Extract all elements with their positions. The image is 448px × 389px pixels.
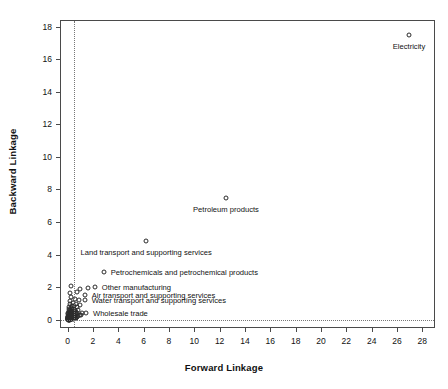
data-point-labeled [223, 195, 228, 200]
y-tick-label: 10 [30, 152, 52, 162]
x-tick-mark [68, 328, 69, 332]
y-tick-label: 2 [30, 282, 52, 292]
x-tick-mark [321, 328, 322, 332]
x-tick-label: 8 [167, 336, 172, 346]
data-point-label: Electricity [393, 41, 426, 50]
data-point [74, 290, 79, 295]
data-point-labeled [101, 269, 106, 274]
data-point-label: Petroleum products [193, 204, 259, 213]
x-tick-label: 22 [342, 336, 351, 346]
y-tick-label: 18 [30, 22, 52, 32]
horizontal-reference-line [61, 320, 434, 321]
y-tick-mark [56, 27, 60, 28]
x-axis-title: Forward Linkage [0, 362, 448, 373]
x-tick-mark [397, 328, 398, 332]
x-tick-label: 6 [141, 336, 146, 346]
data-point-labeled [82, 292, 87, 297]
x-tick-mark [372, 328, 373, 332]
x-tick-label: 0 [65, 336, 70, 346]
y-tick-mark [56, 92, 60, 93]
y-tick-label: 12 [30, 119, 52, 129]
vertical-reference-line [74, 21, 75, 327]
data-point-label: Wholesale trade [93, 308, 148, 317]
data-point-labeled [92, 285, 97, 290]
y-tick-label: 4 [30, 250, 52, 260]
y-tick-mark [56, 287, 60, 288]
data-point [86, 286, 91, 291]
data-point-label: Water transport and supporting services [92, 295, 226, 304]
y-tick-mark [56, 320, 60, 321]
y-tick-mark [56, 222, 60, 223]
y-tick-label: 14 [30, 87, 52, 97]
y-tick-label: 6 [30, 217, 52, 227]
x-tick-label: 18 [291, 336, 300, 346]
y-tick-label: 8 [30, 184, 52, 194]
data-point-labeled [82, 297, 87, 302]
x-tick-mark [245, 328, 246, 332]
x-tick-mark [118, 328, 119, 332]
y-tick-label: 0 [30, 315, 52, 325]
y-tick-mark [56, 59, 60, 60]
data-point [69, 284, 74, 289]
x-tick-mark [270, 328, 271, 332]
y-tick-mark [56, 189, 60, 190]
data-point-labeled [83, 310, 88, 315]
x-tick-label: 26 [392, 336, 401, 346]
x-tick-label: 16 [266, 336, 275, 346]
data-point-labeled [144, 238, 149, 243]
y-axis-title: Backward Linkage [7, 112, 18, 232]
y-tick-mark [56, 157, 60, 158]
x-tick-mark [220, 328, 221, 332]
x-tick-label: 12 [215, 336, 224, 346]
x-tick-mark [296, 328, 297, 332]
scatter-plot-figure: Backward Linkage Forward Linkage Electri… [0, 0, 448, 389]
x-tick-mark [169, 328, 170, 332]
x-tick-label: 28 [418, 336, 427, 346]
x-tick-mark [194, 328, 195, 332]
x-tick-label: 20 [316, 336, 325, 346]
y-tick-label: 16 [30, 54, 52, 64]
x-tick-mark [422, 328, 423, 332]
x-tick-mark [346, 328, 347, 332]
data-point-label: Petrochemicals and petrochemical product… [111, 267, 258, 276]
x-tick-mark [144, 328, 145, 332]
x-tick-label: 24 [367, 336, 376, 346]
data-point-labeled [407, 32, 412, 37]
data-point-label: Land transport and supporting services [80, 247, 211, 256]
y-tick-mark [56, 124, 60, 125]
x-tick-label: 14 [240, 336, 249, 346]
x-tick-mark [93, 328, 94, 332]
x-tick-label: 2 [91, 336, 96, 346]
x-tick-label: 4 [116, 336, 121, 346]
x-tick-label: 10 [190, 336, 199, 346]
y-tick-mark [56, 255, 60, 256]
